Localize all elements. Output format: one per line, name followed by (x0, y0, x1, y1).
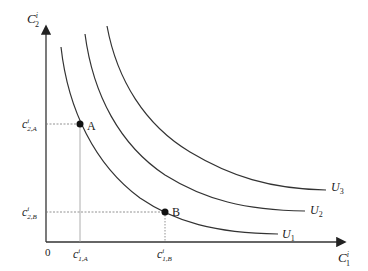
point-b-label: B (172, 205, 180, 219)
point-b (162, 209, 169, 216)
y-axis-label: Ci2 (27, 11, 39, 29)
y-tick-a: ci2,A (22, 117, 38, 133)
x-axis-label: Ci1 (338, 250, 350, 268)
curve-u3-label: U3 (331, 180, 344, 196)
curve-u1-label: U1 (282, 227, 295, 243)
point-a (77, 121, 84, 128)
y-tick-b: ci2,B (22, 205, 38, 221)
x-tick-b: ci1,B (157, 247, 173, 263)
curve-u2-label: U2 (310, 203, 323, 219)
indifference-curve-diagram: A B Ci2 Ci1 0 ci2,A ci2,B ci1,A ci1,B U1… (0, 0, 368, 271)
origin-label: 0 (45, 246, 51, 258)
curve-u3 (107, 26, 326, 190)
x-tick-a: ci1,A (73, 247, 89, 263)
point-a-label: A (87, 119, 96, 133)
